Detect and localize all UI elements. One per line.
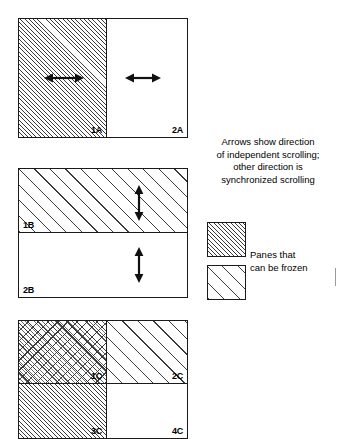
- diagram-c-quad-split: 1C 2C 3C 4C: [18, 320, 188, 439]
- pane-1c[interactable]: 1C: [19, 321, 106, 383]
- legend-swatch-wide: [207, 265, 246, 300]
- pane-3c[interactable]: 3C: [19, 383, 106, 438]
- diagram-a-vertical-split: 1A 2A: [18, 18, 188, 138]
- pane-4c[interactable]: 4C: [106, 383, 187, 438]
- page-edge-mark: [335, 268, 336, 286]
- pane-label-4c: 4C: [172, 426, 183, 437]
- pane-label-1b: 1B: [23, 220, 34, 231]
- horizontal-double-arrow-1a: [44, 71, 84, 85]
- diagram-c-vertical-divider: [106, 321, 107, 438]
- pane-label-3c: 3C: [91, 426, 102, 437]
- diagram-a-divider: [106, 19, 107, 137]
- diagram-b-horizontal-split: 1B 2B: [18, 168, 188, 298]
- pane-label-1c: 1C: [91, 371, 102, 382]
- legend-swatch-dense: [207, 222, 246, 257]
- pane-label-2c: 2C: [172, 371, 183, 382]
- legend-line-2: can be frozen: [250, 262, 308, 275]
- vertical-double-arrow-1b: [132, 185, 146, 221]
- pane-label-2a: 2A: [172, 125, 183, 136]
- pane-1b[interactable]: 1B: [19, 169, 187, 232]
- horizontal-double-arrow-2a: [125, 71, 161, 85]
- diagram-b-divider: [19, 232, 187, 233]
- caption-line-4: synchronized scrolling: [200, 174, 336, 187]
- vertical-double-arrow-2b: [132, 247, 146, 283]
- pane-label-2b: 2B: [23, 285, 34, 296]
- arrows-caption: Arrows show direction of independent scr…: [200, 136, 336, 186]
- caption-line-2: of independent scrolling;: [200, 149, 336, 162]
- pane-2c[interactable]: 2C: [106, 321, 187, 383]
- caption-line-3: other direction is: [200, 161, 336, 174]
- diagram-c-horizontal-divider: [19, 383, 187, 384]
- caption-line-1: Arrows show direction: [200, 136, 336, 149]
- legend-line-1: Panes that: [250, 249, 308, 262]
- legend-label: Panes that can be frozen: [250, 249, 308, 274]
- pane-2b[interactable]: 2B: [19, 232, 187, 297]
- pane-label-1a: 1A: [91, 125, 102, 136]
